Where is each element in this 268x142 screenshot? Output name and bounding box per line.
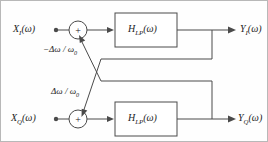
label-block-lpf-top: HLP(ω) [128,24,157,37]
label-output-yi: YI(ω) [240,24,262,37]
arrowhead-yi-output [228,27,236,34]
arrowhead-lpfbot-input [107,116,114,122]
label-sum-top-plus: + [75,25,81,36]
label-gain-negative: −Δω / ω0 [43,45,77,56]
label-output-yq: YQ(ω) [238,113,262,126]
label-gain-positive: Δω / ω0 [51,87,79,98]
label-block-lpf-bottom: HLP(ω) [128,113,157,126]
label-input-xq: XQ(ω) [11,113,36,126]
wire-cross-down-to-sumbot [84,59,102,111]
arrowhead-yq-output [228,116,236,123]
wire-cross-up-to-sumtop [82,41,102,81]
arrowhead-lpftop-input [107,27,114,33]
block-diagram-figure: XI(ω) XQ(ω) YI(ω) YQ(ω) HLP(ω) HLP(ω) + … [0,0,268,142]
label-sum-bottom-plus: + [75,114,81,125]
label-input-xi: XI(ω) [13,24,35,37]
